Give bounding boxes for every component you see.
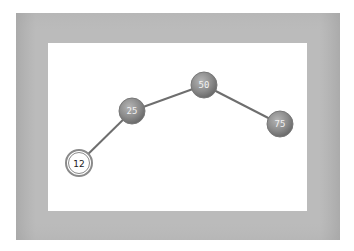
node-label: 12 [73,159,84,169]
binary-tree-diagram: 50 25 75 12 [0,0,354,251]
tree-node-75[interactable]: 75 [267,111,293,137]
node-label: 25 [127,106,138,116]
node-label: 50 [199,80,210,90]
tree-node-25[interactable]: 25 [119,98,145,124]
tree-node-12[interactable]: 12 [66,150,92,176]
tree-node-50[interactable]: 50 [191,72,217,98]
node-label: 75 [275,119,286,129]
